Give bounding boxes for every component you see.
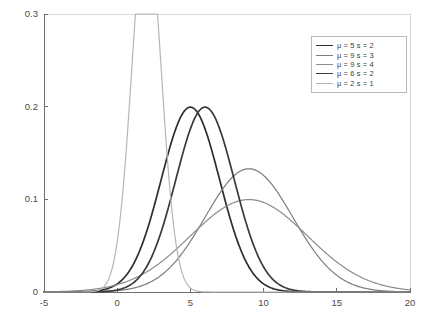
legend-line-swatch-icon: [316, 73, 333, 74]
legend-item: μ = 6 s = 2: [316, 69, 402, 78]
legend-item: μ = 9 s = 3: [316, 50, 402, 59]
curve-series-3: [44, 107, 410, 292]
legend-line-swatch-icon: [316, 55, 333, 56]
legend-item-label: μ = 9 s = 3: [337, 51, 374, 60]
x-tick-label-2: 5: [170, 297, 210, 308]
legend-line-swatch-icon: [316, 45, 333, 46]
x-tick-label-4: 15: [317, 297, 357, 308]
legend-item-label: μ = 5 s = 2: [337, 41, 374, 50]
legend-item: μ = 2 s = 1: [316, 79, 402, 88]
y-tick-label-0: 0: [4, 286, 38, 297]
legend-item: μ = 5 s = 2: [316, 41, 402, 50]
legend-item-label: μ = 9 s = 4: [337, 60, 374, 69]
legend-item: μ = 9 s = 4: [316, 60, 402, 69]
y-tick-label-2: 0.2: [4, 101, 38, 112]
legend-item-label: μ = 6 s = 2: [337, 69, 374, 78]
y-tick-label-3: 0.3: [4, 8, 38, 19]
x-tick-label-5: 20: [390, 297, 426, 308]
x-tick-label-3: 10: [244, 297, 284, 308]
normal-distribution-chart: 00.10.20.3 -505101520 μ = 5 s = 2μ = 9 s…: [0, 0, 426, 326]
legend-line-swatch-icon: [316, 64, 333, 65]
curve-series-0: [44, 107, 410, 292]
legend-line-swatch-icon: [316, 83, 333, 84]
curve-series-2: [44, 200, 410, 292]
x-tick-label-0: -5: [24, 297, 64, 308]
legend: μ = 5 s = 2μ = 9 s = 3μ = 9 s = 4μ = 6 s…: [311, 36, 407, 93]
y-tick-label-1: 0.1: [4, 193, 38, 204]
legend-item-label: μ = 2 s = 1: [337, 79, 374, 88]
x-tick-label-1: 0: [97, 297, 137, 308]
